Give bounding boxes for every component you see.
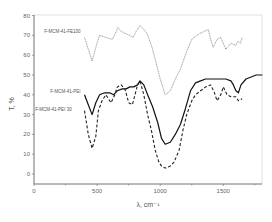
plot-frame bbox=[34, 15, 262, 184]
series-label-2: F-MCM-41-PEI 30 bbox=[35, 107, 72, 112]
x-tick-label: 1000 bbox=[154, 188, 168, 194]
series-line-2 bbox=[85, 81, 243, 168]
series-line-0 bbox=[85, 26, 243, 95]
y-tick-label: 70 bbox=[23, 32, 30, 38]
x-tick-label: 500 bbox=[92, 188, 103, 194]
series-group bbox=[85, 26, 263, 169]
y-tick-label: 10 bbox=[23, 151, 30, 157]
y-tick-label: 60 bbox=[23, 52, 30, 58]
y-tick-label: 40 bbox=[23, 92, 30, 98]
y-tick-label: 50 bbox=[23, 72, 30, 78]
y-tick-label: 20 bbox=[23, 131, 30, 137]
x-ticks: 050010001500 bbox=[32, 184, 255, 194]
series-labels: F-MCM-41-FE100F-MCM-41-PEIF-MCM-41-PEI 3… bbox=[35, 29, 81, 111]
ftir-chart: 01020304050607080 050010001500 F-MCM-41-… bbox=[0, 0, 272, 222]
y-tick-label: 30 bbox=[23, 112, 30, 118]
y-tick-label: 0 bbox=[27, 171, 31, 177]
series-label-0: F-MCM-41-FE100 bbox=[44, 29, 81, 34]
series-label-1: F-MCM-41-PEI bbox=[50, 89, 80, 94]
x-tick-label: 0 bbox=[32, 188, 36, 194]
series-line-1 bbox=[85, 75, 263, 144]
y-ticks: 01020304050607080 bbox=[23, 13, 34, 177]
y-axis-title: T, % bbox=[8, 97, 15, 111]
x-axis-title: λ, cm⁻¹ bbox=[136, 201, 160, 208]
y-tick-label: 80 bbox=[23, 13, 30, 19]
x-tick-label: 1500 bbox=[217, 188, 231, 194]
